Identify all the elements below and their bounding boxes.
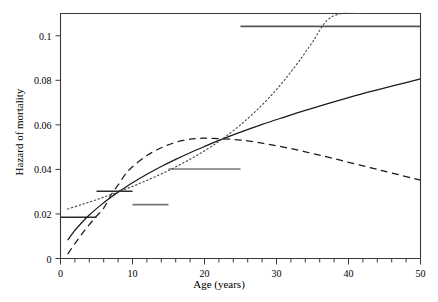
x-tick-label-1: 10 <box>128 268 138 279</box>
y-tick-label-5: 0.1 <box>8 30 52 41</box>
plot-box-border <box>61 14 421 259</box>
x-tick-label-2: 20 <box>200 268 210 279</box>
x-tick-label-0: 0 <box>58 268 63 279</box>
plot-canvas <box>0 0 438 302</box>
dashed-curve <box>68 138 421 254</box>
y-axis-label-wrapper: Hazard of mortality <box>9 52 27 212</box>
dotted-curve <box>68 13 363 209</box>
x-tick-label-4: 40 <box>344 268 354 279</box>
x-tick-label-5: 50 <box>416 268 426 279</box>
hazard-of-mortality-chart: 00.020.040.060.080.101020304050 Age (yea… <box>0 0 438 302</box>
solid-curve <box>68 79 421 240</box>
plot-frame <box>61 14 421 259</box>
curve-layer <box>68 13 421 254</box>
y-tick-label-0: 0 <box>8 253 52 264</box>
tick-marks <box>56 36 421 265</box>
x-tick-label-3: 30 <box>272 268 282 279</box>
y-axis-label: Hazard of mortality <box>13 89 25 176</box>
x-axis-label: Age (years) <box>0 278 438 290</box>
step-segments-layer <box>61 26 421 217</box>
